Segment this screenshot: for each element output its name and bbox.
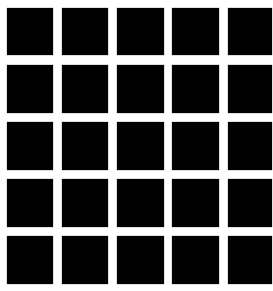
grid-square: [172, 65, 219, 113]
hermann-grid: [0, 0, 273, 291]
grid-square: [172, 179, 219, 227]
grid-square: [62, 179, 108, 227]
grid-square: [62, 236, 108, 284]
grid-square: [62, 65, 108, 113]
grid-square: [62, 122, 108, 170]
grid-square: [228, 236, 272, 284]
grid-square: [62, 8, 108, 55]
grid-square: [7, 179, 53, 227]
grid-square: [117, 122, 164, 170]
grid-square: [228, 65, 272, 113]
grid-square: [228, 122, 272, 170]
grid-square: [117, 179, 164, 227]
grid-square: [7, 8, 53, 55]
grid-square: [228, 179, 272, 227]
grid-square: [117, 8, 164, 55]
grid-square: [7, 122, 53, 170]
grid-square: [7, 65, 53, 113]
grid-square: [117, 236, 164, 284]
grid-square: [228, 8, 272, 55]
grid-square: [7, 236, 53, 284]
grid-square: [172, 236, 219, 284]
grid-square: [172, 8, 219, 55]
grid-square: [172, 122, 219, 170]
grid-square: [117, 65, 164, 113]
